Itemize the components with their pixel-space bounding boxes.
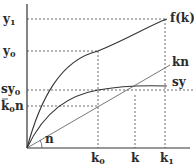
angle-arc	[40, 140, 42, 148]
k0n-label: k0n	[1, 99, 24, 114]
k1-label: k1	[160, 151, 174, 166]
fk-curve	[27, 19, 167, 148]
angle-label: n	[45, 132, 54, 146]
k0-label: k0	[91, 151, 105, 166]
sy0-label: sy0	[1, 82, 21, 97]
fk-label: f(k)	[170, 11, 194, 25]
y0-label: y0	[2, 44, 16, 59]
sy-label: sy	[172, 75, 187, 89]
k-label: k	[131, 151, 140, 165]
kn-label: kn	[172, 55, 189, 69]
y1-label: y1	[2, 12, 16, 27]
solow-diagram: y1 y0 sy0 k0n k0 k k1 f(k) kn sy n	[0, 0, 194, 167]
